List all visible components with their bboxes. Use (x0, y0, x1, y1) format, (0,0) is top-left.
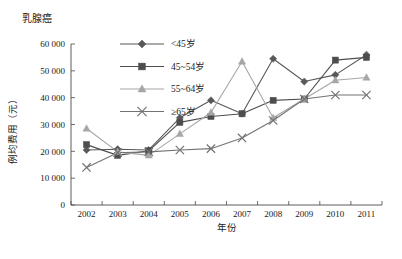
series-3 (87, 61, 367, 155)
x-tick-label: 2002 (78, 209, 96, 219)
x-tick-label: 2004 (140, 209, 159, 219)
series-line (87, 95, 367, 167)
marker-square (332, 57, 338, 63)
series-4 (87, 95, 367, 167)
y-tick-label: 0 (61, 200, 66, 210)
marker-triangle (363, 74, 370, 80)
marker-diamond (207, 97, 214, 104)
marker-triangle (83, 125, 90, 131)
chart-canvas: 乳腺癌010 00020 00030 00040 00050 00060 000… (0, 0, 402, 259)
legend-item-2[interactable]: 45~54岁 (120, 61, 205, 72)
legend-label: 55~64岁 (171, 83, 205, 94)
y-tick-label: 60 000 (40, 39, 65, 49)
series-4-markers (82, 91, 370, 172)
series-line (87, 55, 367, 150)
x-tick-label: 2011 (358, 209, 376, 219)
marker-triangle (238, 58, 245, 64)
y-axis-ticks: 010 00020 00030 00040 00050 00060 000 (40, 39, 75, 210)
axes-group (71, 44, 382, 205)
marker-triangle (207, 109, 214, 115)
marker-square (83, 142, 89, 148)
marker-square (270, 97, 276, 103)
x-axis-title: 年份 (217, 222, 237, 233)
marker-cross (82, 163, 90, 171)
x-tick-label: 2008 (264, 209, 283, 219)
series-2 (87, 57, 367, 155)
x-tick-label: 2003 (109, 209, 128, 219)
marker-diamond (138, 40, 146, 48)
marker-square (139, 63, 146, 70)
legend-label: ≥65岁 (171, 106, 196, 117)
legend: <45岁45~54岁55~64岁≥65岁 (120, 38, 205, 117)
legend-item-3[interactable]: 55~64岁 (120, 83, 205, 94)
series-line (87, 57, 367, 155)
y-tick-label: 10 000 (40, 173, 65, 183)
x-tick-label: 2005 (171, 209, 190, 219)
x-axis-ticks: 2002200320042005200620072008200920102011 (71, 201, 382, 219)
y-tick-label: 30 000 (40, 120, 65, 130)
marker-cross (238, 134, 246, 142)
y-axis-title: 例均费用（元） (7, 94, 18, 164)
series-1 (87, 55, 367, 150)
legend-label: 45~54岁 (171, 61, 205, 72)
chart-title: 乳腺癌 (22, 12, 52, 24)
series-line (87, 61, 367, 155)
x-tick-label: 2006 (202, 209, 221, 219)
marker-square (177, 119, 183, 125)
breast-cancer-cost-line-chart: 乳腺癌010 00020 00030 00040 00050 00060 000… (0, 0, 402, 259)
y-tick-label: 20 000 (40, 147, 65, 157)
x-tick-label: 2007 (233, 209, 252, 219)
legend-label: <45岁 (171, 38, 196, 49)
legend-item-1[interactable]: <45岁 (120, 38, 196, 49)
x-tick-label: 2010 (326, 209, 345, 219)
marker-triangle (138, 85, 146, 92)
marker-square (363, 54, 369, 60)
marker-triangle (176, 130, 183, 136)
legend-item-4[interactable]: ≥65岁 (120, 106, 196, 117)
x-tick-label: 2009 (295, 209, 314, 219)
marker-square (239, 111, 245, 117)
y-tick-label: 40 000 (40, 93, 65, 103)
y-tick-label: 50 000 (40, 66, 65, 76)
